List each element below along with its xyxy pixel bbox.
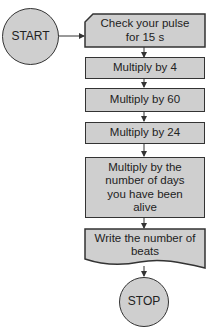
- step-check-pulse: Check your pulse for 15 s: [85, 14, 205, 47]
- start-terminal: START: [2, 8, 59, 65]
- multiply-4-label: Multiply by 4: [109, 61, 181, 75]
- start-label: START: [11, 30, 49, 44]
- step-write-beats: Write the number of beats: [85, 229, 205, 261]
- stop-label: STOP: [128, 295, 160, 309]
- multiply-60-label: Multiply by 60: [106, 93, 184, 107]
- stop-terminal: STOP: [119, 277, 169, 327]
- check-pulse-label: Check your pulse for 15 s: [91, 17, 199, 44]
- step-multiply-days: Multiply by the number of days you have …: [85, 157, 205, 218]
- step-multiply-4: Multiply by 4: [85, 57, 205, 79]
- step-multiply-24: Multiply by 24: [85, 122, 205, 144]
- step-multiply-60: Multiply by 60: [85, 88, 205, 112]
- multiply-24-label: Multiply by 24: [106, 126, 184, 140]
- multiply-days-label: Multiply by the number of days you have …: [93, 161, 197, 215]
- write-beats-label: Write the number of beats: [89, 232, 201, 259]
